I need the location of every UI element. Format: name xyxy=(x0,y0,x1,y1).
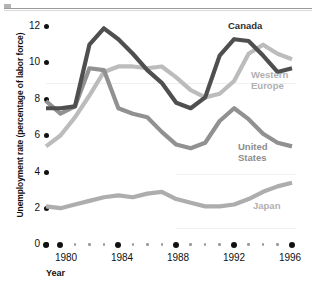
x-axis-dot-1988 xyxy=(173,242,179,248)
x-axis-dot-1989 xyxy=(189,243,192,246)
x-tick-label-1988: 1988 xyxy=(158,252,198,263)
x-axis-dot-1995 xyxy=(276,243,279,246)
x-tick-label-1996: 1996 xyxy=(270,252,310,263)
x-axis-dot-1987 xyxy=(161,243,164,246)
x-axis-dot-1984 xyxy=(115,242,121,248)
series-label-western-europe: Western Europe xyxy=(251,69,288,91)
x-axis-title: Year xyxy=(46,268,65,278)
x-axis-dot-1979 xyxy=(43,242,49,248)
series-label-united-states: United States xyxy=(238,141,268,163)
x-tick-label-1992: 1992 xyxy=(214,252,254,263)
x-axis-dot-1993 xyxy=(247,243,250,246)
series-label-canada: Canada xyxy=(228,20,262,31)
x-axis-dot-1996 xyxy=(289,242,295,248)
unemployment-rate-line-chart: Unemployment rate (percentage of labor f… xyxy=(0,0,316,284)
x-axis-dot-1992 xyxy=(231,242,237,248)
x-axis-dot-1981 xyxy=(74,243,77,246)
series-label-japan: Japan xyxy=(253,200,280,211)
x-axis-dot-1994 xyxy=(262,243,265,246)
x-tick-label-1980: 1980 xyxy=(46,252,86,263)
x-axis-dot-1985 xyxy=(132,243,135,246)
x-tick-label-1984: 1984 xyxy=(102,252,142,263)
x-axis-dot-1983 xyxy=(103,243,106,246)
x-axis-dot-1986 xyxy=(146,243,149,246)
x-axis-dot-1991 xyxy=(218,243,221,246)
x-axis-dot-1982 xyxy=(88,243,91,246)
